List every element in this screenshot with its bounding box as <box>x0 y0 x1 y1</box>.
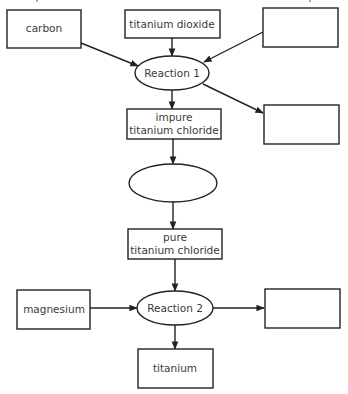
node-titanium-dioxide: titanium dioxide <box>125 10 220 38</box>
node-blank-ellipse[interactable] <box>129 164 217 202</box>
blank-answer-box-mid-right[interactable] <box>264 105 339 144</box>
titanium-dioxide-label: titanium dioxide <box>129 18 214 30</box>
titanium-extraction-flowchart: carbon titanium dioxide Reaction 1 impur… <box>0 0 348 394</box>
node-titanium: titanium <box>138 349 213 388</box>
reaction1-label: Reaction 1 <box>144 67 200 79</box>
node-blank-bottom-right[interactable] <box>265 289 340 328</box>
node-reaction2: Reaction 2 <box>137 291 213 325</box>
node-magnesium: magnesium <box>17 290 90 329</box>
node-carbon: carbon <box>7 10 81 48</box>
titanium-label: titanium <box>153 362 197 374</box>
carbon-label: carbon <box>26 22 62 34</box>
arrow-carbon-to-reaction1 <box>81 43 138 66</box>
node-pure-titanium-chloride: pure titanium chloride <box>128 229 222 259</box>
blank-answer-box-top-right[interactable] <box>263 8 338 47</box>
pure-label-line1: pure <box>163 231 187 243</box>
node-reaction1: Reaction 1 <box>135 56 209 90</box>
reaction2-label: Reaction 2 <box>147 302 203 314</box>
blank-answer-ellipse[interactable] <box>129 164 217 202</box>
pure-label-line2: titanium chloride <box>130 244 220 256</box>
impure-label-line2: titanium chloride <box>129 124 219 136</box>
magnesium-label: magnesium <box>23 303 85 315</box>
impure-label-line1: impure <box>155 111 192 123</box>
node-impure-titanium-chloride: impure titanium chloride <box>127 109 221 139</box>
node-blank-mid-right[interactable] <box>264 105 339 144</box>
blank-answer-box-bottom-right[interactable] <box>265 289 340 328</box>
node-blank-top-right[interactable] <box>263 8 338 47</box>
